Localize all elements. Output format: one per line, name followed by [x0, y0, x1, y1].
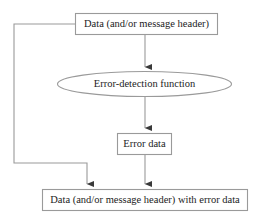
- node-output-box: [43, 190, 248, 211]
- node-function-ellipse: [58, 72, 232, 97]
- edge-source-to-output-feedback: [14, 24, 87, 184]
- error-detection-flow-diagram: Data (and/or message header) Error-detec…: [0, 0, 260, 219]
- diagram-canvas: [0, 0, 260, 219]
- node-source-box: [76, 14, 218, 35]
- node-errordata-box: [118, 134, 172, 155]
